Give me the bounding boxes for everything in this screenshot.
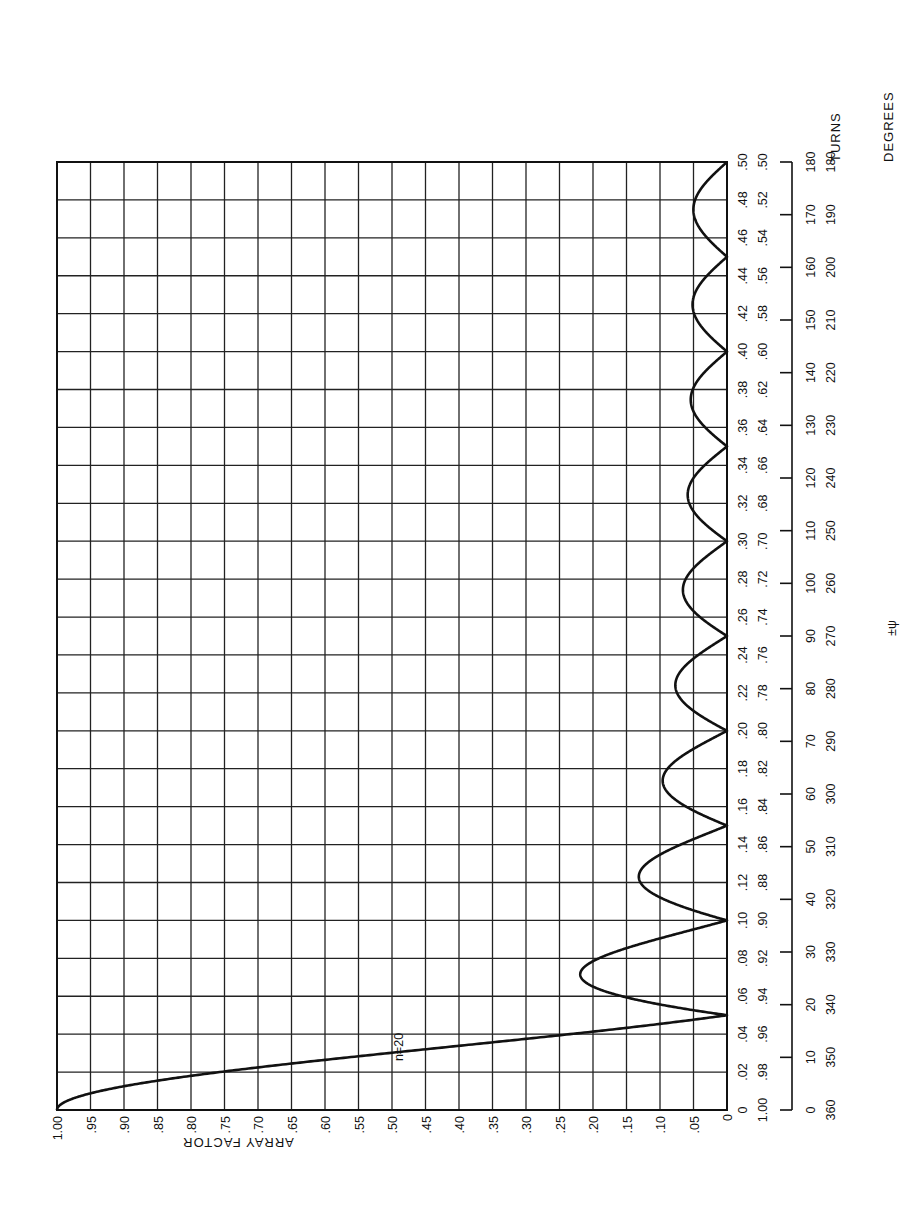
degrees-tick-inner: 140 <box>804 362 818 383</box>
degrees-tick-inner: 120 <box>804 468 818 489</box>
degrees-tick-outer: 260 <box>824 573 838 594</box>
degrees-axis-title: DEGREES <box>881 91 896 162</box>
turns-tick-outer: .54 <box>756 229 770 246</box>
degrees-tick-inner: 80 <box>804 682 818 696</box>
degrees-tick-inner: 160 <box>804 257 818 278</box>
array-factor-tick: .75 <box>219 1116 233 1133</box>
array-factor-tick: 0 <box>721 1114 735 1121</box>
turns-tick-outer: .96 <box>756 1025 770 1042</box>
array-factor-tick: .70 <box>252 1116 266 1133</box>
degrees-tick-outer: 220 <box>824 362 838 383</box>
turns-tick-outer: 1.00 <box>756 1098 770 1122</box>
turns-tick-inner: 0 <box>736 1106 750 1113</box>
annotation-n20: n=20 <box>392 1033 406 1061</box>
turns-tick-inner: .18 <box>736 760 750 777</box>
turns-tick-inner: .46 <box>736 229 750 246</box>
turns-tick-inner: .32 <box>736 495 750 512</box>
turns-tick-outer: .56 <box>756 267 770 284</box>
turns-tick-outer: .78 <box>756 684 770 701</box>
degrees-tick-inner: 110 <box>804 521 818 541</box>
degrees-tick-inner: 130 <box>804 415 818 436</box>
degrees-tick-outer: 250 <box>824 520 838 541</box>
array-factor-tick: .40 <box>453 1116 467 1133</box>
array-factor-tick-labels: 1.00.95.90.85.80.75.70.65.60.55.50.45.40… <box>51 1114 735 1140</box>
degrees-tick-inner: 60 <box>804 787 818 801</box>
turns-tick-outer: .58 <box>756 305 770 322</box>
turns-tick-inner: .20 <box>736 722 750 739</box>
degrees-tick-outer: 330 <box>824 942 838 963</box>
degrees-tick-inner: 90 <box>804 629 818 643</box>
array-factor-tick: .55 <box>353 1116 367 1133</box>
turns-tick-outer: .66 <box>756 457 770 474</box>
turns-tick-outer: .90 <box>756 912 770 929</box>
degrees-tick-inner: 0 <box>804 1106 818 1113</box>
turns-tick-inner: .48 <box>736 191 750 208</box>
array-factor-tick: .65 <box>286 1116 300 1133</box>
turns-tick-outer: .94 <box>756 988 770 1005</box>
turns-tick-outer: .50 <box>756 153 770 170</box>
array-factor-tick: .80 <box>185 1116 199 1133</box>
turns-tick-outer: .80 <box>756 722 770 739</box>
turns-tick-inner: .22 <box>736 684 750 701</box>
turns-tick-outer: .88 <box>756 874 770 891</box>
turns-tick-inner: .38 <box>736 381 750 398</box>
degrees-tick-outer: 240 <box>824 468 838 489</box>
degrees-tick-inner: 40 <box>804 892 818 906</box>
curve-annotation: n=20 <box>392 1033 406 1061</box>
array-factor-tick: .15 <box>621 1116 635 1133</box>
grid-lines <box>57 162 727 1110</box>
array-factor-tick: .85 <box>152 1116 166 1133</box>
turns-tick-inner: .24 <box>736 646 750 663</box>
array-factor-tick: .90 <box>118 1116 132 1133</box>
degrees-tick-outer: 210 <box>824 310 838 331</box>
degrees-tick-outer: 300 <box>824 784 838 805</box>
turns-tick-inner: .16 <box>736 798 750 815</box>
x-axis-title: ARRAY FACTOR <box>182 1135 294 1150</box>
array-factor-tick: .45 <box>420 1116 434 1133</box>
turns-tick-inner: .36 <box>736 419 750 436</box>
turns-tick-outer: .52 <box>756 191 770 208</box>
degrees-tick-outer: 290 <box>824 731 838 752</box>
array-factor-tick: .35 <box>487 1116 501 1133</box>
turns-tick-outer: .64 <box>756 419 770 436</box>
degrees-tick-inner: 20 <box>804 998 818 1012</box>
degrees-tick-outer: 200 <box>824 257 838 278</box>
array-factor-tick: 1.00 <box>51 1116 65 1140</box>
turns-tick-outer: .76 <box>756 646 770 663</box>
degrees-tick-inner: 10 <box>804 1050 818 1064</box>
array-factor-tick: .20 <box>587 1116 601 1133</box>
turns-tick-inner: .26 <box>736 608 750 625</box>
turns-tick-outer: .84 <box>756 798 770 815</box>
turns-axis-title: TURNS <box>828 112 843 162</box>
degrees-tick-outer: 270 <box>824 626 838 647</box>
degrees-tick-inner: 50 <box>804 840 818 854</box>
turns-tick-outer: .92 <box>756 950 770 967</box>
turns-tick-inner: .14 <box>736 836 750 853</box>
turns-tick-inner: .10 <box>736 912 750 929</box>
array-factor-tick: .05 <box>688 1116 702 1133</box>
turns-tick-inner: .06 <box>736 988 750 1005</box>
turns-tick-outer: .98 <box>756 1063 770 1080</box>
degrees-tick-outer: 340 <box>824 994 838 1015</box>
turns-tick-outer: .86 <box>756 836 770 853</box>
turns-tick-inner: .28 <box>736 570 750 587</box>
degrees-tick-inner: 180 <box>804 152 818 173</box>
degrees-tick-inner: 150 <box>804 310 818 331</box>
degrees-tick-outer: 320 <box>824 889 838 910</box>
turns-tick-inner: .42 <box>736 305 750 322</box>
turns-tick-inner: .50 <box>736 153 750 170</box>
array-factor-tick: .25 <box>554 1116 568 1133</box>
degrees-tick-inner: 170 <box>804 204 818 225</box>
degrees-tick-inner: 100 <box>804 573 818 594</box>
turns-tick-inner: .02 <box>736 1063 750 1080</box>
turns-tick-inner: .44 <box>736 267 750 284</box>
psi-axis-label: ±ψ <box>885 620 899 636</box>
turns-tick-inner: .30 <box>736 532 750 549</box>
array-factor-tick: .30 <box>520 1116 534 1133</box>
degrees-tick-outer: 360 <box>824 1100 838 1121</box>
turns-tick-outer: .82 <box>756 760 770 777</box>
degrees-tick-outer: 190 <box>824 204 838 225</box>
turns-tick-outer: .70 <box>756 532 770 549</box>
turns-tick-outer: .74 <box>756 608 770 625</box>
turns-tick-labels: 01.00.02.98.04.96.06.94.08.92.10.90.12.8… <box>736 153 770 1122</box>
